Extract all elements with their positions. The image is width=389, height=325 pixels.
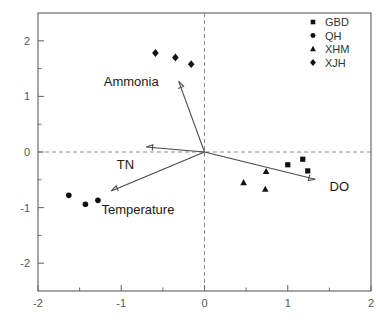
loading-vectors — [111, 81, 315, 191]
data-point-xjh — [152, 49, 159, 57]
data-point-qh — [83, 201, 89, 207]
vector-do — [205, 152, 316, 181]
vector-ammonia — [178, 81, 204, 152]
scatter-plot-canvas: -2-1012 210-1-2 AmmoniaTNTemperatureDO G… — [0, 0, 389, 325]
x-tick-label: 2 — [368, 297, 374, 309]
y-axis-ticks — [38, 41, 44, 263]
legend-label-xjh: XJH — [325, 57, 346, 69]
vector-arrowhead — [178, 81, 183, 88]
vector-arrowhead — [308, 175, 315, 181]
data-point-xjh — [188, 60, 195, 68]
legend-marker-gbd — [311, 20, 316, 25]
vector-label-temperature: Temperature — [101, 202, 174, 217]
vector-label-tn: TN — [117, 157, 134, 172]
pca-biplot-figure: -2-1012 210-1-2 AmmoniaTNTemperatureDO G… — [0, 0, 389, 325]
x-axis-ticks — [38, 285, 371, 291]
legend-item-gbd[interactable]: GBD — [311, 16, 349, 28]
x-tick-label: -1 — [116, 297, 126, 309]
vector-shaft — [146, 147, 204, 152]
vector-label-do: DO — [330, 179, 350, 194]
y-axis-tick-labels: 210-1-2 — [20, 35, 30, 269]
series-xhm — [240, 168, 269, 192]
data-point-xhm — [262, 186, 269, 192]
series-xjh — [152, 49, 194, 68]
data-point-xhm — [240, 179, 247, 185]
legend-label-gbd: GBD — [325, 16, 349, 28]
y-tick-label: -1 — [20, 202, 30, 214]
data-point-gbd — [285, 162, 290, 167]
y-tick-label: -2 — [20, 257, 30, 269]
data-point-xjh — [172, 54, 179, 62]
vector-tn — [146, 145, 204, 152]
series-gbd — [285, 157, 310, 174]
vector-shaft — [179, 81, 205, 152]
legend-marker-qh — [311, 33, 316, 38]
x-axis-tick-labels: -2-1012 — [33, 297, 374, 309]
x-tick-label: 1 — [285, 297, 291, 309]
vector-arrowhead — [111, 186, 118, 191]
series-qh — [66, 193, 101, 208]
vector-label-ammonia: Ammonia — [104, 74, 160, 89]
data-point-qh — [66, 193, 72, 199]
data-point-xhm — [263, 168, 270, 174]
vector-shaft — [205, 152, 316, 179]
legend-marker-xjh — [310, 59, 316, 66]
y-tick-label: 2 — [24, 35, 30, 47]
legend-item-xhm[interactable]: XHM — [310, 43, 349, 55]
legend-item-qh[interactable]: QH — [311, 30, 342, 42]
y-tick-label: 0 — [24, 146, 30, 158]
loading-vector-labels: AmmoniaTNTemperatureDO — [101, 74, 349, 217]
legend-item-xjh[interactable]: XJH — [310, 57, 346, 69]
data-point-gbd — [300, 157, 305, 162]
x-tick-label: -2 — [33, 297, 43, 309]
data-points — [66, 49, 310, 207]
legend-label-qh: QH — [325, 30, 342, 42]
y-tick-label: 1 — [24, 90, 30, 102]
data-point-qh — [95, 198, 101, 204]
legend-marker-xhm — [310, 46, 316, 52]
x-tick-label: 0 — [201, 297, 207, 309]
legend[interactable]: GBDQHXHMXJH — [310, 16, 349, 69]
data-point-gbd — [305, 168, 310, 173]
legend-label-xhm: XHM — [325, 43, 349, 55]
